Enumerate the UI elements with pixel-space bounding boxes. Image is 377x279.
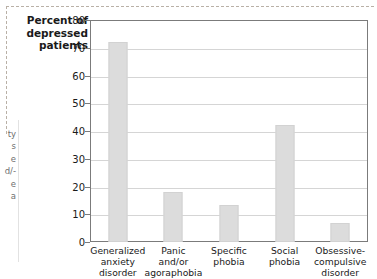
bar-slot-0 — [90, 20, 146, 242]
y-tick-mark-50 — [85, 103, 90, 104]
y-tick-label-10: 10 — [59, 209, 85, 220]
text-fragment-line-3: d/- — [0, 165, 16, 177]
y-tick-label-30: 30 — [59, 153, 85, 164]
y-tick-mark-40 — [85, 131, 90, 132]
bar-1 — [164, 192, 183, 242]
text-fragment-line-1: s — [0, 140, 16, 152]
x-axis-label-4-line-0: Obsessive- — [307, 245, 373, 256]
y-tick-mark-70 — [85, 48, 90, 49]
bar-slot-3 — [257, 20, 313, 242]
bar-series — [90, 20, 368, 242]
bar-slot-1 — [146, 20, 202, 242]
chart-figure: tysed/-ea Percent ofdepressedpatients 01… — [0, 0, 377, 279]
bar-3 — [275, 125, 294, 242]
x-axis-label-1-line-2: agoraphobia — [140, 267, 206, 278]
text-fragment-line-0: ty — [0, 128, 16, 140]
y-tick-mark-30 — [85, 159, 90, 160]
x-axis-label-4-line-1: compulsive — [307, 256, 373, 267]
y-tick-mark-10 — [85, 214, 90, 215]
y-tick-mark-0 — [85, 242, 90, 243]
text-fragment-line-4: e — [0, 178, 16, 190]
x-axis-label-4: Obsessive-compulsivedisorder — [307, 245, 373, 279]
column-separator-rule — [18, 120, 19, 262]
callout-dashed-border-top — [6, 6, 374, 7]
bar-slot-2 — [201, 20, 257, 242]
x-axis-label-4-line-2: disorder — [307, 267, 373, 278]
y-tick-label-50: 50 — [59, 98, 85, 109]
y-tick-label-40: 40 — [59, 126, 85, 137]
text-fragment-line-5: a — [0, 190, 16, 202]
y-tick-label-0: 0 — [59, 237, 85, 248]
y-tick-mark-80 — [85, 20, 90, 21]
bar-4 — [331, 223, 350, 242]
adjacent-column-text-fragment: tysed/-ea — [0, 128, 17, 256]
y-tick-label-60: 60 — [59, 70, 85, 81]
bar-2 — [219, 205, 238, 242]
text-fragment-line-2: e — [0, 153, 16, 165]
y-tick-label-20: 20 — [59, 181, 85, 192]
x-axis-labels: GeneralizedanxietydisorderPanicand/orago… — [90, 245, 368, 279]
y-tick-mark-20 — [85, 187, 90, 188]
y-tick-label-80: 80 — [59, 15, 85, 26]
y-tick-label-70: 70 — [59, 42, 85, 53]
bar-0 — [108, 42, 127, 242]
bar-slot-4 — [312, 20, 368, 242]
callout-dashed-border-left — [6, 6, 7, 134]
y-tick-mark-60 — [85, 76, 90, 77]
y-axis-title-line-1: depressed — [16, 27, 88, 40]
